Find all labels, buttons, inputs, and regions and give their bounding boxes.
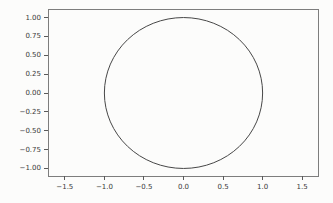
x-tick-mark <box>302 176 303 180</box>
y-tick-mark <box>44 168 48 169</box>
y-tick-mark <box>44 17 48 18</box>
x-tick-label: −0.5 <box>135 183 152 191</box>
y-tick-mark <box>44 130 48 131</box>
x-tick-mark <box>223 176 224 180</box>
plot-canvas <box>49 10 318 176</box>
x-tick-label: −1.5 <box>56 183 73 191</box>
x-tick-label: 1.5 <box>297 183 308 191</box>
x-tick-mark <box>104 176 105 180</box>
figure: −1.5−1.0−0.50.00.51.01.51.000.750.500.25… <box>0 0 333 203</box>
y-tick-mark <box>44 55 48 56</box>
y-tick-label: −0.25 <box>20 108 41 116</box>
circle-line <box>104 18 262 169</box>
y-tick-label: 0.25 <box>25 70 41 78</box>
x-tick-mark <box>183 176 184 180</box>
x-tick-mark <box>143 176 144 180</box>
x-tick-label: −1.0 <box>96 183 113 191</box>
y-tick-mark <box>44 111 48 112</box>
y-tick-mark <box>44 93 48 94</box>
y-tick-mark <box>44 149 48 150</box>
y-tick-label: 0.00 <box>25 89 41 97</box>
x-tick-label: 0.5 <box>217 183 228 191</box>
x-tick-label: 1.0 <box>257 183 268 191</box>
y-tick-label: −0.75 <box>20 146 41 154</box>
y-tick-label: −0.50 <box>20 127 41 135</box>
y-tick-label: 0.50 <box>25 51 41 59</box>
x-tick-label: 0.0 <box>178 183 189 191</box>
plot-area: −1.5−1.0−0.50.00.51.01.51.000.750.500.25… <box>48 9 319 177</box>
y-tick-label: −1.00 <box>20 164 41 172</box>
y-tick-mark <box>44 36 48 37</box>
x-tick-mark <box>262 176 263 180</box>
y-tick-mark <box>44 74 48 75</box>
y-tick-label: 1.00 <box>25 14 41 22</box>
x-tick-mark <box>64 176 65 180</box>
y-tick-label: 0.75 <box>25 32 41 40</box>
